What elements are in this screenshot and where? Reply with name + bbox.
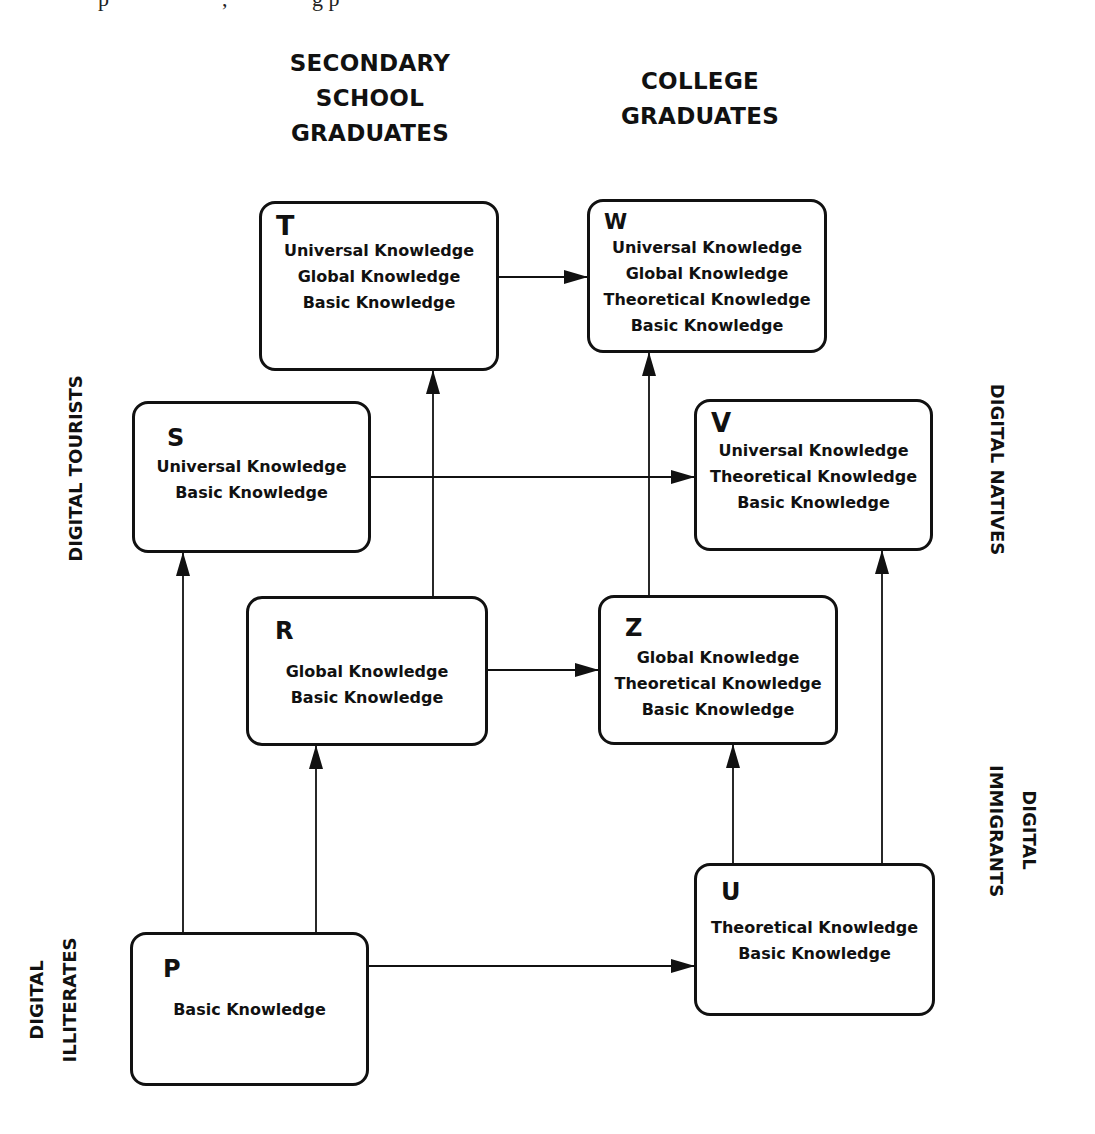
header-line: GRADUATES	[590, 99, 810, 134]
knowledge-item: Basic Knowledge	[697, 941, 932, 967]
node-U: U Theoretical Knowledge Basic Knowledge	[694, 863, 935, 1016]
node-R: R Global Knowledge Basic Knowledge	[246, 596, 488, 746]
header-line: COLLEGE	[590, 64, 810, 99]
side-label-digital-illiterates: DIGITAL ILLITERATES	[20, 935, 86, 1065]
knowledge-item: Universal Knowledge	[697, 438, 930, 464]
knowledge-item: Theoretical Knowledge	[697, 915, 932, 941]
knowledge-item: Theoretical Knowledge	[697, 464, 930, 490]
knowledge-item: Basic Knowledge	[133, 997, 366, 1023]
node-V: V Universal Knowledge Theoretical Knowle…	[694, 399, 933, 551]
node-letter: V	[711, 410, 731, 436]
node-content: Universal Knowledge Theoretical Knowledg…	[697, 438, 930, 516]
node-P: P Basic Knowledge	[130, 932, 369, 1086]
side-label-digital-tourists: DIGITAL TOURISTS	[59, 371, 92, 566]
knowledge-item: Global Knowledge	[601, 645, 835, 671]
knowledge-item: Basic Knowledge	[601, 697, 835, 723]
label-line: DIGITAL NATIVES	[981, 375, 1014, 565]
node-W: W Universal Knowledge Global Knowledge T…	[587, 199, 827, 353]
knowledge-item: Basic Knowledge	[135, 480, 368, 506]
column-header-secondary-graduates: SECONDARY SCHOOL GRADUATES	[250, 46, 490, 151]
knowledge-item: Global Knowledge	[262, 264, 496, 290]
node-Z: Z Global Knowledge Theoretical Knowledge…	[598, 595, 838, 745]
node-T: T Universal Knowledge Global Knowledge B…	[259, 201, 499, 371]
side-label-digital-natives: DIGITAL NATIVES	[981, 375, 1014, 565]
knowledge-item: Basic Knowledge	[249, 685, 485, 711]
label-line: DIGITAL	[20, 935, 53, 1065]
node-letter: P	[163, 957, 181, 981]
label-line: ILLITERATES	[53, 935, 86, 1065]
header-line: SCHOOL	[250, 81, 490, 116]
node-letter: S	[167, 426, 184, 450]
header-line: GRADUATES	[250, 116, 490, 151]
node-content: Basic Knowledge	[133, 997, 366, 1023]
node-letter: T	[276, 212, 294, 239]
node-S: S Universal Knowledge Basic Knowledge	[132, 401, 371, 553]
node-letter: W	[604, 212, 627, 233]
node-content: Global Knowledge Theoretical Knowledge B…	[601, 645, 835, 723]
knowledge-item: Theoretical Knowledge	[590, 287, 824, 313]
node-content: Theoretical Knowledge Basic Knowledge	[697, 915, 932, 967]
node-letter: R	[275, 619, 293, 643]
node-letter: U	[721, 880, 741, 904]
node-content: Universal Knowledge Global Knowledge Bas…	[262, 238, 496, 316]
label-line: DIGITAL	[1013, 765, 1046, 895]
node-content: Global Knowledge Basic Knowledge	[249, 659, 485, 711]
knowledge-item: Basic Knowledge	[262, 290, 496, 316]
side-label-digital-immigrants: DIGITAL IMMIGRANTS	[980, 765, 1046, 895]
knowledge-item: Global Knowledge	[590, 261, 824, 287]
node-content: Universal Knowledge Basic Knowledge	[135, 454, 368, 506]
knowledge-item: Universal Knowledge	[135, 454, 368, 480]
header-line: SECONDARY	[250, 46, 490, 81]
node-content: Universal Knowledge Global Knowledge The…	[590, 235, 824, 339]
knowledge-item: Global Knowledge	[249, 659, 485, 685]
knowledge-item: Theoretical Knowledge	[601, 671, 835, 697]
knowledge-item: Universal Knowledge	[590, 235, 824, 261]
label-line: IMMIGRANTS	[980, 765, 1013, 895]
knowledge-item: Basic Knowledge	[590, 313, 824, 339]
label-line: DIGITAL TOURISTS	[59, 371, 92, 566]
knowledge-item: Universal Knowledge	[262, 238, 496, 264]
node-letter: Z	[625, 616, 642, 640]
column-header-college-graduates: COLLEGE GRADUATES	[590, 64, 810, 134]
knowledge-item: Basic Knowledge	[697, 490, 930, 516]
